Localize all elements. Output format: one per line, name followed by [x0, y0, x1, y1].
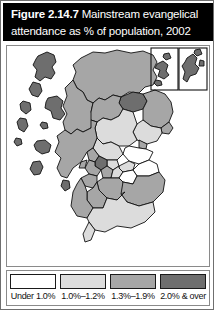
legend-swatch-2-0-over	[160, 274, 206, 289]
figure-title-line2: attendance as % of population, 2002	[11, 23, 207, 40]
scotland-map: .rg{stroke:#111111;stroke-width:0.9;stro…	[7, 46, 209, 266]
legend-label-row: Under 1.0% 1.0%–1.2% 1.3%–1.9% 2.0% & ov…	[10, 290, 206, 303]
figure-container: Figure 2.14.7 Mainstream evangelical att…	[0, 0, 214, 310]
legend-label-1-0-1-2: 1.0%–1.2%	[60, 290, 106, 303]
map-panel: .rg{stroke:#111111;stroke-width:0.9;stro…	[6, 45, 210, 267]
legend-label-2-0-over: 2.0% & over	[160, 290, 206, 303]
legend-swatch-row	[10, 274, 206, 289]
legend: Under 1.0% 1.0%–1.2% 1.3%–1.9% 2.0% & ov…	[6, 270, 210, 306]
figure-title-line1: Figure 2.14.7 Mainstream evangelical	[11, 6, 207, 23]
legend-swatch-under-1	[10, 274, 56, 289]
legend-label-1-3-1-9: 1.3%–1.9%	[110, 290, 156, 303]
legend-label-under-1: Under 1.0%	[10, 290, 56, 303]
figure-number: Figure 2.14.7	[11, 8, 79, 20]
figure-title-bar: Figure 2.14.7 Mainstream evangelical att…	[3, 3, 213, 41]
region-shetland-unst	[199, 60, 204, 66]
figure-title-text: Mainstream evangelical	[82, 8, 198, 20]
legend-swatch-1-0-1-2	[60, 274, 106, 289]
legend-swatch-1-3-1-9	[110, 274, 156, 289]
